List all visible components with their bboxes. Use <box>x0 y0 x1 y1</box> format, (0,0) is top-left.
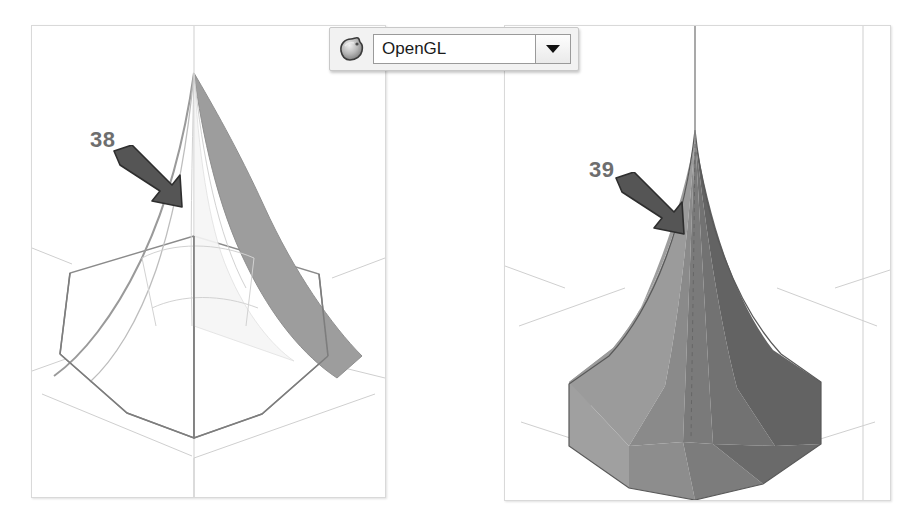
renderer-toolbar[interactable]: OpenGL <box>329 27 579 71</box>
opengl-render-sphere-icon <box>337 36 365 62</box>
renderer-select-dropdown-button[interactable] <box>535 35 570 63</box>
wireframe-viewport[interactable] <box>31 25 386 498</box>
wireframe-scene <box>32 26 385 497</box>
shaded-viewport[interactable] <box>504 25 891 501</box>
shaded-scene <box>505 26 890 500</box>
renderer-select-value[interactable]: OpenGL <box>374 35 535 63</box>
renderer-select[interactable]: OpenGL <box>373 34 571 64</box>
chevron-down-icon <box>546 45 560 53</box>
